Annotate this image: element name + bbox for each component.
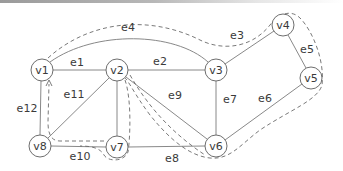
node-label: v8: [33, 140, 47, 153]
node-label: v5: [304, 72, 318, 85]
node-v2: v2: [106, 59, 128, 81]
edge-label-e10: e10: [70, 150, 91, 163]
node-v5: v5: [300, 67, 322, 89]
dashed-route-v2-v6: [130, 75, 205, 155]
node-label: v4: [276, 19, 290, 32]
node-label: v6: [209, 140, 223, 153]
node-label: v1: [35, 64, 49, 77]
edge-e9: [126, 77, 207, 139]
node-label: v3: [209, 64, 223, 77]
edge-e10: [51, 146, 106, 147]
graph-diagram: v1 v2 v3 v4 v5 v6 v7 v8 e1 e2 e3 e4 e5 e…: [0, 0, 343, 171]
edge-label-e5: e5: [300, 43, 314, 56]
edge-label-e4: e4: [121, 21, 135, 34]
edge-label-e11: e11: [64, 88, 85, 101]
node-v1: v1: [31, 59, 53, 81]
node-v7: v7: [106, 136, 128, 158]
edge-label-e12: e12: [17, 102, 38, 115]
edge-e8: [128, 146, 205, 147]
edge-label-e8: e8: [165, 152, 179, 165]
edge-label-e6: e6: [258, 92, 272, 105]
node-v4: v4: [272, 14, 294, 36]
node-v6: v6: [205, 135, 227, 157]
node-v3: v3: [205, 59, 227, 81]
node-label: v7: [110, 141, 124, 154]
edge-label-e9: e9: [168, 89, 182, 102]
edge-e12: [40, 81, 41, 135]
node-label: v2: [110, 64, 124, 77]
edge-label-e7: e7: [223, 93, 237, 106]
edge-label-e3: e3: [230, 29, 244, 42]
edge-label-e2: e2: [153, 55, 167, 68]
edge-label-e1: e1: [70, 56, 84, 69]
node-v8: v8: [29, 135, 51, 157]
